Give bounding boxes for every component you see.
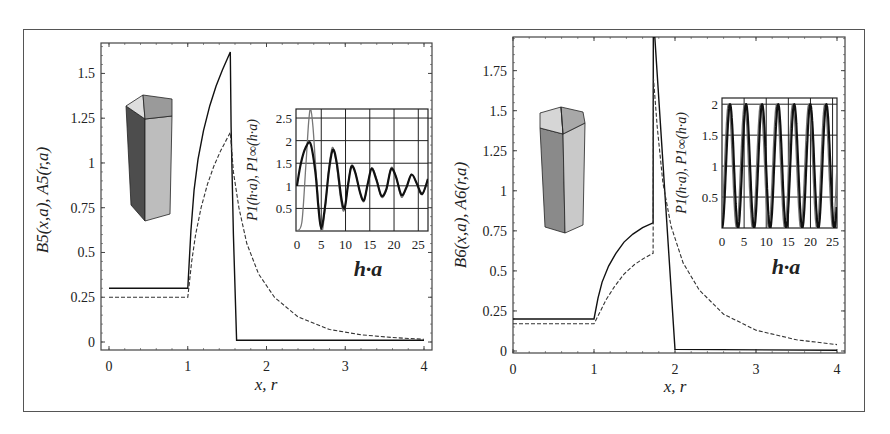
left-inset-ylabel: P1(h·a), P1∞(h·a) xyxy=(245,119,261,222)
y-tick-label: 1 xyxy=(500,184,507,199)
inset-y-tick-label: 0.5 xyxy=(276,201,292,216)
inset-x-tick-label: 25 xyxy=(826,234,839,249)
y-tick-label: 0.25 xyxy=(71,290,96,305)
inset-y-tick-label: 2 xyxy=(712,97,719,112)
right-inset-xlabel: h·a xyxy=(772,254,801,279)
right-xlabel: x, r xyxy=(663,377,687,396)
y-tick-label: 1.75 xyxy=(483,64,508,79)
inset-y-tick-label: 1 xyxy=(286,179,293,194)
hexagonal-prism-icon xyxy=(540,107,585,233)
right-inset-ylabel: P1(h·a), P1∞(h·a) xyxy=(674,112,690,215)
x-tick-label: 4 xyxy=(834,362,841,377)
pentagonal-prism-icon xyxy=(126,95,172,221)
x-tick-label: 1 xyxy=(591,362,598,377)
inset-x-tick-label: 20 xyxy=(804,234,817,249)
y-tick-label: 1.5 xyxy=(490,104,508,119)
inset-x-tick-label: 15 xyxy=(782,234,795,249)
y-tick-label: 0 xyxy=(88,335,95,350)
x-tick-label: 4 xyxy=(421,359,428,374)
left-xlabel: x, r xyxy=(254,375,278,394)
inset-y-tick-label: 1.5 xyxy=(276,156,292,171)
inset-y-tick-label: 1.5 xyxy=(702,128,718,143)
figure-canvas: 0123400.250.50.7511.251.5 05101520250.51… xyxy=(0,0,890,434)
inset-x-tick-label: 0 xyxy=(719,234,726,249)
y-tick-label: 0.75 xyxy=(71,201,96,216)
inset-x-tick-label: 5 xyxy=(741,234,748,249)
inset-x-tick-label: 25 xyxy=(412,237,425,252)
x-tick-label: 3 xyxy=(342,359,349,374)
inset-x-tick-label: 15 xyxy=(363,237,376,252)
y-tick-label: 1.5 xyxy=(78,66,96,81)
x-tick-label: 0 xyxy=(106,359,113,374)
left-inset-xlabel: h·a xyxy=(354,256,383,281)
y-tick-label: 1 xyxy=(88,156,95,171)
inset-x-tick-label: 0 xyxy=(294,237,301,252)
right-inset-chart: 05101520250.511.52 xyxy=(702,97,839,249)
y-tick-label: 0 xyxy=(500,344,507,359)
left-inset-chart: 05101520250.511.522.5 xyxy=(276,109,428,252)
y-tick-label: 0.75 xyxy=(483,224,508,239)
x-tick-label: 2 xyxy=(263,359,270,374)
inset-y-tick-label: 2 xyxy=(286,134,293,149)
y-tick-label: 0.5 xyxy=(78,245,96,260)
inset-x-tick-label: 10 xyxy=(760,234,773,249)
y-tick-label: 0.25 xyxy=(483,304,508,319)
y-tick-label: 0.5 xyxy=(490,264,508,279)
inset-x-tick-label: 20 xyxy=(388,237,401,252)
right-ylabel: B6(x,a), A6(r,a) xyxy=(451,161,470,268)
left-ylabel: B5(x,a), A5(r,a) xyxy=(33,146,52,253)
x-tick-label: 3 xyxy=(753,362,760,377)
y-tick-label: 1.25 xyxy=(483,144,508,159)
x-tick-label: 2 xyxy=(672,362,679,377)
inset-y-tick-label: 0.5 xyxy=(702,190,718,205)
inset-y-tick-label: 2.5 xyxy=(276,111,292,126)
inset-x-tick-label: 10 xyxy=(339,237,352,252)
inset-y-tick-label: 1 xyxy=(712,159,719,174)
y-tick-label: 1.25 xyxy=(71,111,96,126)
inset-x-tick-label: 5 xyxy=(318,237,325,252)
x-tick-label: 0 xyxy=(510,362,517,377)
x-tick-label: 1 xyxy=(184,359,191,374)
